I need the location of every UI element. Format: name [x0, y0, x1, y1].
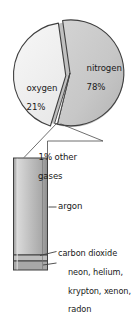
pie-label-other-gases-line2: gases	[28, 172, 77, 182]
pie-label-nitrogen-percent: 78%	[87, 82, 106, 92]
bar-label-carbon-dioxide: carbon dioxide	[58, 249, 117, 258]
pie-label-oxygen: oxygen 21%	[16, 74, 57, 122]
pie-label-oxygen-name: oxygen	[27, 83, 58, 93]
leader-line-right	[61, 124, 104, 141]
bar-label-argon: argon	[58, 202, 82, 212]
bar-label-noble-gases: neon, helium, krypton, xenon, radon	[58, 259, 131, 316]
bar-label-noble-gases-line3: radon	[68, 304, 91, 314]
bar-label-noble-gases-line2: krypton, xenon,	[68, 286, 131, 296]
pie-label-other-gases-line1: 1% other	[39, 152, 77, 162]
bar-label-noble-gases-line1: neon, helium,	[68, 267, 123, 277]
pie-label-oxygen-percent: 21%	[27, 102, 46, 112]
pie-label-nitrogen-name: nitrogen	[87, 63, 122, 73]
pie-label-nitrogen: nitrogen 78%	[76, 54, 122, 102]
pie-label-other-gases: 1% other gases	[28, 143, 77, 201]
